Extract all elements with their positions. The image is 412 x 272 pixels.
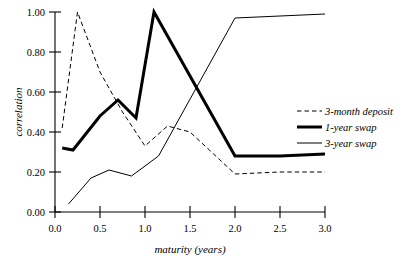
series-line-1-year-swap [62, 12, 325, 156]
y-tick-label: 0.00 [27, 207, 45, 218]
y-axis-title: correlation [12, 87, 24, 137]
x-tick-label: 3.0 [318, 223, 331, 234]
chart-legend: 3-month deposit 1-year swap 3-year swap [297, 106, 394, 149]
y-axis-ticks: 0.00 0.20 0.40 0.60 0.80 1.00 [27, 7, 61, 218]
y-tick-label: 0.80 [27, 47, 45, 58]
y-tick-label: 0.20 [27, 167, 45, 178]
legend-label-1-year-swap: 1-year swap [325, 122, 377, 133]
legend-label-3-month-deposit: 3-month deposit [324, 106, 394, 117]
x-tick-label: 0.5 [93, 223, 106, 234]
series-group [62, 12, 325, 204]
y-tick-label: 0.60 [27, 87, 45, 98]
chart-figure: 0.00 0.20 0.40 0.60 0.80 1.00 0.0 0.5 1.… [0, 0, 412, 272]
correlation-line-chart: 0.00 0.20 0.40 0.60 0.80 1.00 0.0 0.5 1.… [0, 0, 412, 272]
y-tick-label: 0.40 [27, 127, 45, 138]
legend-label-3-year-swap: 3-year swap [324, 138, 377, 149]
x-axis-ticks: 0.0 0.5 1.0 1.5 2.0 2.5 3.0 [48, 206, 331, 234]
x-tick-label: 1.0 [138, 223, 151, 234]
x-tick-label: 2.0 [228, 223, 241, 234]
x-axis-title: maturity (years) [154, 243, 226, 256]
x-tick-label: 2.5 [273, 223, 286, 234]
x-tick-label: 1.5 [183, 223, 196, 234]
x-tick-label: 0.0 [48, 223, 61, 234]
y-tick-label: 1.00 [27, 7, 45, 18]
